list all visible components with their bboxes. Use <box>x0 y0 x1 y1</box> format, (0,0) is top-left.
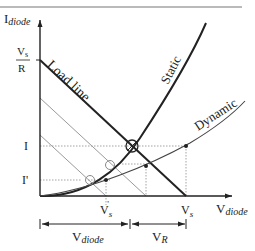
x-axis-label: Vdiode <box>216 201 248 217</box>
v-r-dimension-label: VR <box>152 229 168 245</box>
current-i-prime-label: I' <box>22 173 28 187</box>
static-intersect-circle-2 <box>86 176 95 185</box>
shifted-load-line-2 <box>40 135 106 196</box>
diode-load-line-diagram: Idiode Vs R I I' Load line Static Dynami… <box>0 0 255 251</box>
load-line-label: Load line <box>44 57 93 104</box>
current-i-label: I <box>24 139 28 153</box>
dynamic-point-main <box>184 144 188 148</box>
static-label: Static <box>157 53 184 86</box>
dynamic-point-low <box>104 178 108 182</box>
vs-over-r-numerator: Vs <box>17 45 28 59</box>
vs-label: Vs <box>181 203 194 219</box>
vs-prime-label: Vs' <box>100 199 113 219</box>
vs-over-r-denominator: R <box>18 62 26 74</box>
dynamic-point-mid <box>144 164 148 168</box>
v-diode-dimension-label: Vdiode <box>72 229 104 245</box>
shifted-load-line-1 <box>40 98 146 196</box>
dynamic-label: Dynamic <box>191 95 239 134</box>
y-axis-label: Idiode <box>4 11 31 27</box>
static-curve <box>40 23 206 196</box>
